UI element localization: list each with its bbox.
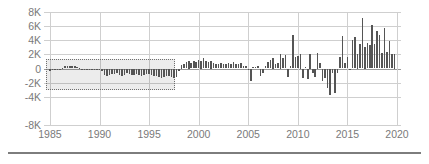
bar[interactable] — [228, 63, 230, 69]
bar[interactable] — [275, 64, 277, 68]
bar[interactable] — [126, 69, 128, 74]
bar[interactable] — [252, 67, 254, 68]
bar[interactable] — [54, 69, 56, 71]
bar[interactable] — [220, 63, 222, 69]
bar[interactable] — [158, 69, 160, 77]
bar[interactable] — [332, 69, 334, 74]
bar[interactable] — [166, 69, 168, 76]
bar[interactable] — [49, 69, 51, 71]
bar[interactable] — [352, 40, 354, 69]
bar[interactable] — [188, 61, 190, 68]
bar[interactable] — [369, 45, 371, 68]
bar[interactable] — [124, 69, 126, 76]
bar[interactable] — [114, 69, 116, 74]
bar[interactable] — [280, 54, 282, 68]
bar[interactable] — [119, 69, 121, 75]
bar[interactable] — [334, 69, 336, 94]
bar[interactable] — [376, 31, 378, 68]
bar[interactable] — [290, 66, 292, 69]
bar[interactable] — [285, 55, 287, 68]
bar[interactable] — [153, 69, 155, 76]
bar[interactable] — [168, 69, 170, 77]
bar[interactable] — [354, 37, 356, 68]
bar[interactable] — [364, 47, 366, 68]
bar[interactable] — [129, 69, 131, 75]
bar[interactable] — [305, 67, 307, 68]
bar[interactable] — [235, 64, 237, 69]
bar[interactable] — [163, 69, 165, 77]
bar[interactable] — [59, 69, 61, 70]
bar[interactable] — [357, 54, 359, 68]
bar[interactable] — [317, 53, 319, 69]
bar[interactable] — [183, 64, 185, 69]
bar[interactable] — [287, 69, 289, 78]
bar[interactable] — [161, 69, 163, 78]
bar[interactable] — [381, 53, 383, 69]
bar[interactable] — [384, 28, 386, 68]
bar[interactable] — [195, 62, 197, 68]
bar[interactable] — [106, 69, 108, 76]
bar[interactable] — [394, 54, 396, 68]
bar[interactable] — [391, 54, 393, 69]
bar[interactable] — [307, 69, 309, 79]
bar[interactable] — [386, 52, 388, 69]
bar[interactable] — [76, 67, 78, 68]
bar[interactable] — [181, 65, 183, 69]
bar[interactable] — [210, 61, 212, 68]
bar[interactable] — [302, 69, 304, 79]
bar[interactable] — [339, 57, 341, 68]
bar[interactable] — [389, 41, 391, 69]
bar[interactable] — [367, 43, 369, 68]
bar[interactable] — [104, 69, 106, 75]
bar[interactable] — [238, 64, 240, 68]
bar[interactable] — [111, 69, 113, 75]
bar[interactable] — [309, 54, 311, 68]
bar[interactable] — [156, 69, 158, 77]
bar[interactable] — [203, 58, 205, 69]
bar[interactable] — [248, 69, 250, 70]
bar[interactable] — [208, 62, 210, 68]
bar[interactable] — [277, 63, 279, 69]
bar[interactable] — [64, 66, 66, 68]
bar[interactable] — [141, 69, 143, 76]
bar[interactable] — [295, 57, 297, 68]
bar[interactable] — [176, 69, 178, 77]
bar[interactable] — [186, 62, 188, 68]
bar[interactable] — [245, 66, 247, 68]
bar[interactable] — [69, 66, 71, 69]
bar[interactable] — [136, 69, 138, 75]
bar[interactable] — [292, 35, 294, 68]
bar[interactable] — [121, 69, 123, 76]
bar[interactable] — [255, 67, 257, 68]
bar[interactable] — [101, 69, 103, 71]
bar[interactable] — [312, 69, 314, 74]
bar[interactable] — [319, 63, 321, 69]
bar[interactable] — [173, 69, 175, 78]
bar[interactable] — [314, 69, 316, 77]
bar[interactable] — [52, 69, 54, 71]
bar[interactable] — [379, 35, 381, 69]
bar[interactable] — [329, 69, 331, 95]
bar[interactable] — [148, 69, 150, 74]
bar[interactable] — [86, 69, 88, 70]
bar[interactable] — [374, 44, 376, 68]
bar[interactable] — [89, 69, 91, 71]
bar[interactable] — [138, 69, 140, 76]
bar[interactable] — [324, 69, 326, 78]
bar[interactable] — [81, 69, 83, 70]
bar[interactable] — [198, 60, 200, 68]
bar[interactable] — [371, 25, 373, 68]
bar[interactable] — [300, 54, 302, 68]
bar[interactable] — [71, 66, 73, 69]
bar[interactable] — [84, 69, 86, 70]
bar[interactable] — [62, 68, 64, 69]
bar[interactable] — [133, 69, 135, 75]
bar[interactable] — [262, 69, 264, 74]
bar[interactable] — [337, 69, 339, 73]
bar[interactable] — [57, 69, 59, 70]
bar[interactable] — [230, 64, 232, 69]
bar[interactable] — [178, 69, 180, 71]
bar[interactable] — [342, 36, 344, 68]
bar[interactable] — [233, 62, 235, 68]
bar[interactable] — [240, 63, 242, 69]
